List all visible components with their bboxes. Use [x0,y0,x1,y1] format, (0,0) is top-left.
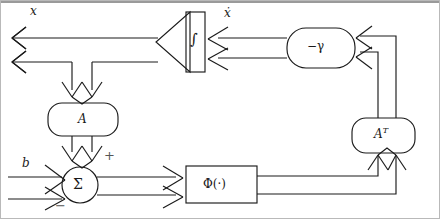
leak-gain-label: −γ [307,39,324,53]
gamma-to-integrator-bus [208,27,287,70]
figure-canvas: x ẋ b + − ∫ −γ A AT Φ(·) Σ [0,0,440,219]
summer-to-phi-bus [97,166,183,208]
summing-junction-label: Σ [73,176,83,192]
matrix-a-transpose-base: A [374,127,383,141]
x-dot-label: ẋ [224,6,231,20]
nonlinearity-label: Φ(·) [203,177,226,191]
integrator-label: ∫ [190,30,198,48]
minus-sign-label: − [55,198,66,213]
matrix-at-to-gamma-bus [356,26,396,118]
matrix-a-transpose-superscript: T [383,126,388,135]
x-output-arrowhead [12,27,26,73]
b-input-label: b [22,156,30,170]
matrix-a-to-summer-bus [62,136,102,168]
bus-branch-to-matrix-a [62,62,102,104]
x-output-label: x [30,4,37,18]
plus-sign-label: + [104,148,115,163]
matrix-a-label: A [78,112,87,126]
output-bus-lines [12,38,158,62]
matrix-a-transpose-label: AT [374,126,388,141]
x-output-chevrons [12,27,26,73]
phi-to-matrix-at-bus [257,148,406,194]
